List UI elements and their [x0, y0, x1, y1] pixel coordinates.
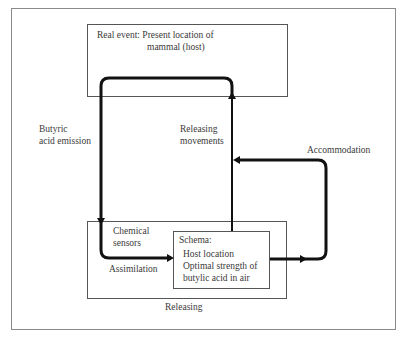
arrow-down-icon: [97, 218, 105, 225]
arrow-up-icon: [228, 92, 236, 99]
connector-arrows: [0, 0, 406, 342]
arrow-right-icon-2: [300, 255, 307, 263]
top-loop-line: [101, 78, 232, 258]
arrow-right-icon: [167, 254, 174, 262]
arrow-left-icon: [233, 156, 240, 164]
accommodation-line: [238, 160, 326, 259]
